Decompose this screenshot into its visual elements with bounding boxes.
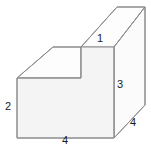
dimension-label-bottom-width: 4 [62,135,68,146]
dimension-label-right-lower: 4 [130,117,136,128]
dimension-label-left-height: 2 [5,101,11,112]
dimension-label-right-upper: 3 [117,79,123,90]
dimension-label-step-top: 1 [97,33,103,44]
top-face-step-ledge [17,47,81,78]
step-solid-diagram [0,0,151,152]
figure-container: 1 3 4 2 4 [0,0,151,152]
